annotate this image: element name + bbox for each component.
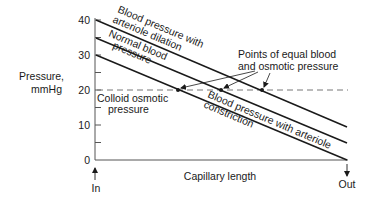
y-axis-label-line2: mmHg [31, 83, 62, 95]
in-label: In [92, 182, 101, 194]
equal-point-dilation [260, 88, 264, 92]
tick-label-40: 40 [78, 14, 90, 26]
tick-label-20: 20 [78, 84, 90, 96]
pressure-diagram: 40 30 20 10 0 Pressure, mmHg Points of e… [0, 0, 365, 204]
equal-points-label-line2: and osmotic pressure [238, 60, 339, 72]
colloid-label-line2: pressure [108, 103, 149, 115]
y-axis-label-line1: Pressure, [19, 70, 64, 82]
constriction-label-line1: Blood pressure with arteriole [206, 88, 333, 151]
tick-label-0: 0 [84, 154, 90, 166]
x-axis-label: Capillary length [184, 170, 257, 182]
tick-label-10: 10 [78, 119, 90, 131]
annotation-arrow-3 [264, 73, 270, 87]
out-label: Out [339, 178, 356, 190]
equal-point-constriction [176, 88, 180, 92]
annotation-arrow-1 [181, 71, 255, 88]
tick-label-30: 30 [78, 49, 90, 61]
equal-points-label-line1: Points of equal blood [238, 48, 336, 60]
